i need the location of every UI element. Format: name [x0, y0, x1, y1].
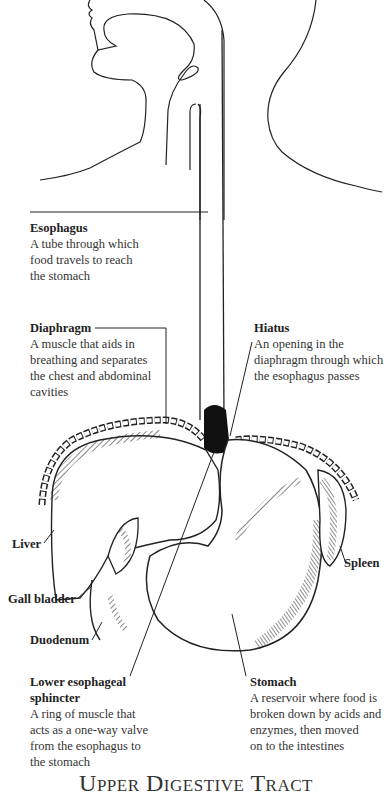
diagram-title: Upper Digestive Tract	[0, 770, 392, 797]
spleen	[318, 470, 346, 566]
diaphragm-term: Diaphragm	[30, 320, 151, 336]
label-hiatus: Hiatus An opening in the diaphragm throu…	[254, 320, 383, 384]
label-spleen: Spleen	[344, 556, 379, 571]
label-liver: Liver	[12, 537, 41, 552]
les-term-line1: Lower esophageal	[30, 674, 148, 690]
label-les: Lower esophageal sphincter A ring of mus…	[30, 674, 148, 770]
label-gall-bladder: Gall bladder	[8, 592, 76, 607]
label-stomach: Stomach A reservoir where food is broken…	[250, 674, 381, 754]
esophagus-tube	[200, 30, 224, 420]
head-neck-outline	[40, 0, 382, 220]
les-term-line2: sphincter	[30, 690, 148, 706]
hiatus-term: Hiatus	[254, 320, 383, 336]
stomach-term: Stomach	[250, 674, 381, 690]
label-diaphragm: Diaphragm A muscle that aids in breathin…	[30, 320, 151, 400]
label-esophagus: Esophagus A tube through which food trav…	[30, 220, 139, 284]
label-duodenum: Duodenum	[30, 633, 89, 648]
esophagus-term: Esophagus	[30, 220, 139, 236]
hiatus-pointer	[230, 342, 252, 436]
